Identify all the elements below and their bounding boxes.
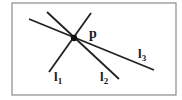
line-label-l1: l1 — [54, 69, 63, 86]
point-label-p: p — [89, 26, 97, 41]
line-label-l2: l2 — [100, 69, 109, 86]
intersection-point-p — [71, 35, 77, 41]
line-l2 — [47, 12, 119, 79]
diagram-canvas: p l1 l2 l3 — [0, 0, 182, 100]
diagram-frame — [12, 3, 176, 95]
line-label-l3: l3 — [138, 46, 147, 63]
